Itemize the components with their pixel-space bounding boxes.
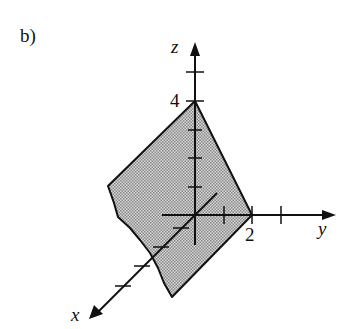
z-axis-label: z (171, 36, 178, 58)
x-arrow-icon (89, 305, 103, 319)
z-intercept-label: 4 (170, 90, 180, 112)
z-arrow-icon (190, 42, 200, 56)
y-axis-label: y (318, 218, 326, 240)
y-intercept-label: 2 (245, 224, 255, 246)
x-axis-label: x (71, 304, 79, 326)
shaded-plane-region (108, 101, 252, 297)
